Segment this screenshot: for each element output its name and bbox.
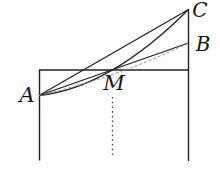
geometry-figure: A M B C xyxy=(0,0,220,183)
point-label-C: C xyxy=(192,0,207,20)
point-label-A: A xyxy=(19,85,34,106)
point-label-B: B xyxy=(196,34,211,54)
point-label-M: M xyxy=(103,73,125,94)
